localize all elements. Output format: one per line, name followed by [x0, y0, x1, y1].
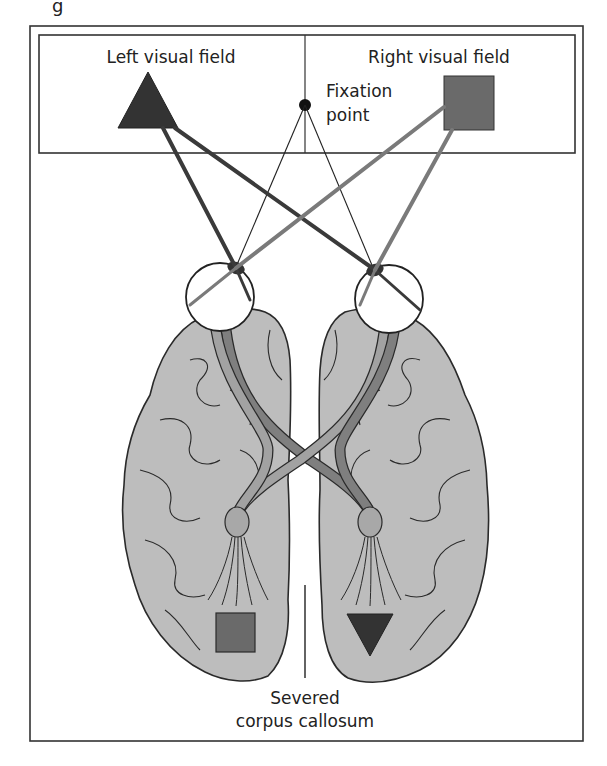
square-stimulus-icon	[444, 76, 494, 130]
right-hemisphere	[319, 309, 489, 682]
right-eye	[355, 261, 423, 333]
left-lgn	[225, 507, 249, 537]
severed-label-line2: corpus callosum	[236, 711, 374, 731]
caption-fragment: g	[52, 0, 63, 16]
right-visual-field-label: Right visual field	[368, 47, 510, 67]
right-lgn	[358, 507, 382, 537]
left-visual-field-label: Left visual field	[106, 47, 235, 67]
left-eye	[186, 259, 254, 331]
split-brain-diagram: g Left visual field Right visual field F…	[0, 0, 607, 766]
left-hemisphere	[123, 309, 291, 681]
visual-field-panel: Left visual field Right visual field Fix…	[39, 35, 575, 153]
fixation-label-line2: point	[326, 105, 370, 125]
fixation-label-line1: Fixation	[326, 81, 392, 101]
left-hemisphere-square-icon	[216, 613, 255, 652]
severed-label-line1: Severed	[270, 688, 340, 708]
